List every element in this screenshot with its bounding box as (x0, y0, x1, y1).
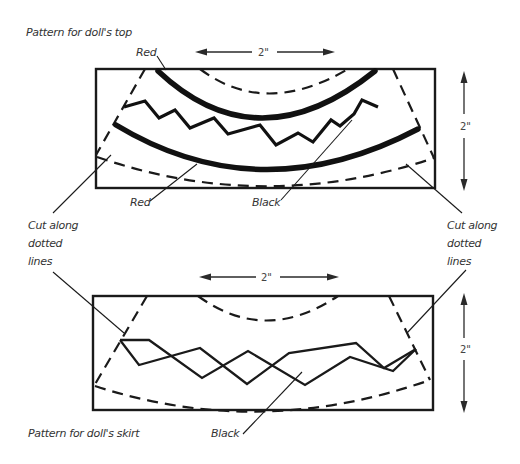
bottom-height-dimension: 2" (460, 293, 471, 413)
bottom-height-label: 2" (460, 344, 471, 355)
bottom-pattern-outline (93, 296, 433, 410)
label-black-bottom: Black (211, 427, 240, 440)
leader-cut-left (53, 155, 111, 213)
top-left-cut-line (96, 69, 145, 155)
label-cut-left-3: lines (28, 255, 53, 268)
label-cut-right-1: Cut along (447, 219, 498, 232)
top-pattern-title: Pattern for doll's top (26, 26, 132, 39)
leader-red-lower (150, 164, 197, 201)
bottom-pattern: 2" 2" Pattern for doll's skirt Black (28, 270, 471, 440)
label-cut-right-3: lines (447, 255, 472, 268)
top-height-label: 2" (460, 121, 471, 132)
top-width-dimension: 2" (195, 47, 335, 58)
bottom-waist-cut-line (198, 296, 338, 321)
label-red-lower: Red (130, 196, 152, 209)
label-cut-left-2: dotted (28, 237, 64, 250)
top-neckline-cut-line (200, 69, 348, 94)
bottom-black-zigzag-a (120, 340, 416, 385)
doll-pattern-diagram: Pattern for doll's top 2" 2" (0, 0, 520, 464)
top-right-cut-line (393, 69, 434, 158)
label-red-upper: Red (136, 46, 158, 59)
top-width-label: 2" (258, 47, 269, 58)
top-height-dimension: 2" (460, 71, 471, 191)
top-black-zigzag-stripe (124, 100, 378, 145)
label-cut-left-1: Cut along (28, 219, 79, 232)
label-black-top: Black (252, 196, 281, 209)
bottom-hem-cut-line (95, 380, 430, 412)
bottom-width-label: 2" (261, 272, 272, 283)
bottom-pattern-title: Pattern for doll's skirt (28, 427, 140, 440)
leader-cut-left-bottom (53, 272, 124, 333)
bottom-width-dimension: 2" (199, 272, 339, 283)
label-cut-right-2: dotted (447, 237, 483, 250)
leader-cut-right-bottom (407, 270, 466, 333)
top-pattern: Pattern for doll's top 2" 2" (26, 26, 498, 268)
